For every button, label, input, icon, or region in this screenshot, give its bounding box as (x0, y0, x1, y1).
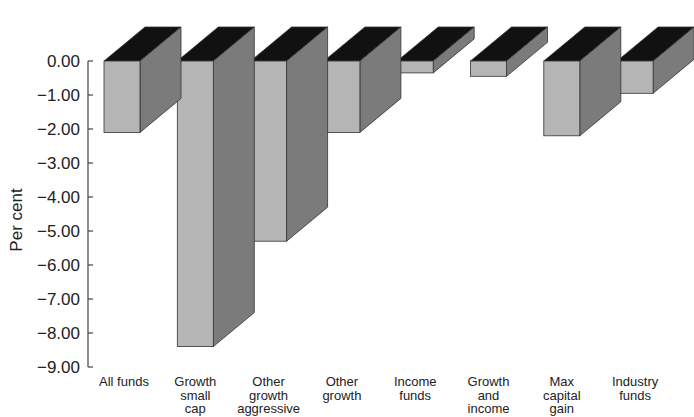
bar (104, 27, 181, 132)
bar (471, 27, 548, 76)
bar-side-face (287, 27, 328, 241)
bar-front-face (251, 61, 287, 241)
bar (544, 27, 621, 136)
bar-series (104, 27, 694, 347)
y-tick-label: −9.00 (37, 358, 80, 377)
bar (324, 27, 401, 132)
y-tick-label: −1.00 (37, 86, 80, 105)
y-axis: 0.00−1.00−2.00−3.00−4.00−5.00−6.00−7.00−… (37, 52, 93, 377)
x-category-label: Othergrowth (322, 374, 361, 403)
x-category-label: Growthsmallcap (174, 374, 216, 416)
bar-front-face (104, 61, 140, 132)
x-category-label: Growthandincome (468, 374, 510, 416)
y-tick-label: 0.00 (47, 52, 80, 71)
y-tick-label: −3.00 (37, 154, 80, 173)
bar (177, 27, 254, 347)
bar (251, 27, 328, 241)
x-category-label: Othergrowthaggressive (237, 374, 300, 416)
x-category-label: Incomefunds (394, 374, 437, 403)
chart-canvas: 0.00−1.00−2.00−3.00−4.00−5.00−6.00−7.00−… (0, 0, 694, 417)
y-tick-label: −2.00 (37, 120, 80, 139)
bar-front-face (544, 61, 580, 136)
y-tick-label: −7.00 (37, 290, 80, 309)
x-category-label: All funds (99, 374, 149, 389)
y-tick-label: −8.00 (37, 324, 80, 343)
bar (617, 27, 694, 93)
bar-front-face (397, 61, 433, 73)
bar-chart: 0.00−1.00−2.00−3.00−4.00−5.00−6.00−7.00−… (0, 0, 694, 417)
y-axis-label: Per cent (7, 188, 26, 252)
bar-front-face (177, 61, 213, 347)
y-tick-label: −6.00 (37, 256, 80, 275)
x-category-label: Maxcapitalgain (543, 374, 581, 416)
bar-front-face (471, 61, 507, 76)
x-category-label: Industryfunds (612, 374, 659, 403)
y-tick-label: −5.00 (37, 222, 80, 241)
x-axis-labels: All fundsGrowthsmallcapOthergrowthaggres… (99, 374, 659, 416)
bar-front-face (617, 61, 653, 93)
y-tick-label: −4.00 (37, 188, 80, 207)
bar-front-face (324, 61, 360, 132)
bar-side-face (213, 27, 254, 347)
bar (397, 27, 474, 73)
